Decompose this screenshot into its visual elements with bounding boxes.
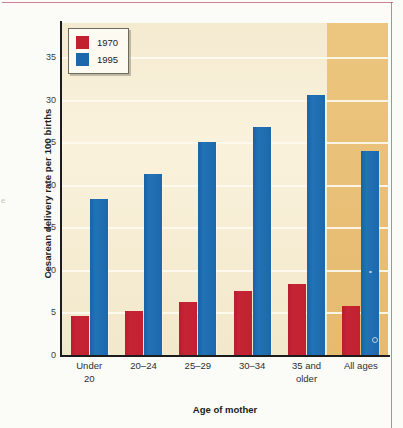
gridline bbox=[62, 312, 388, 314]
y-tick-label: 20 bbox=[34, 180, 56, 190]
bar-1995-all-ages bbox=[361, 151, 379, 355]
legend-label: 1970 bbox=[97, 37, 118, 48]
x-tick-label-line: 20–24 bbox=[114, 360, 174, 373]
chart-legend: 19701995 bbox=[68, 28, 129, 74]
gridline bbox=[62, 142, 388, 144]
bar-chart: Cesarean delivery rate per 100 births 05… bbox=[0, 0, 403, 428]
y-tick-label: 25 bbox=[34, 137, 56, 147]
gridline bbox=[62, 227, 388, 229]
bar-1995-25-29 bbox=[198, 142, 216, 355]
bar-1970-30-34 bbox=[234, 291, 252, 355]
bar-1970-20-24 bbox=[125, 311, 143, 355]
y-tick-label: 30 bbox=[34, 95, 56, 105]
legend-swatch-1970 bbox=[76, 36, 89, 49]
legend-item-1970: 1970 bbox=[76, 34, 118, 51]
y-tick-label: 15 bbox=[34, 222, 56, 232]
x-tick-label: 35 andolder bbox=[277, 360, 337, 385]
x-tick-label-line: 25–29 bbox=[168, 360, 228, 373]
bar-1970-35-and-older bbox=[288, 284, 306, 355]
x-axis-title: Age of mother bbox=[62, 404, 388, 415]
legend-swatch-1995 bbox=[76, 53, 89, 66]
y-axis-line bbox=[60, 21, 62, 357]
x-tick-label-line: All ages bbox=[331, 360, 391, 373]
bar-1970-all-ages bbox=[342, 306, 360, 355]
x-tick-label: All ages bbox=[331, 360, 391, 373]
x-tick-label: 25–29 bbox=[168, 360, 228, 373]
y-tick-label: 5 bbox=[34, 307, 56, 317]
y-tick-label: 35 bbox=[34, 52, 56, 62]
x-axis-tick-labels: Under2020–2425–2930–3435 andolderAll age… bbox=[62, 360, 388, 400]
bar-1995-30-34 bbox=[253, 127, 271, 355]
y-tick-label: 10 bbox=[34, 265, 56, 275]
x-tick-label-line: 35 and bbox=[277, 360, 337, 373]
bar-1970-25-29 bbox=[179, 302, 197, 355]
gridline bbox=[62, 185, 388, 187]
legend-item-1995: 1995 bbox=[76, 51, 118, 68]
x-tick-label-line: Under bbox=[59, 360, 119, 373]
bar-1970-under-20 bbox=[71, 316, 89, 355]
x-tick-label: Under20 bbox=[59, 360, 119, 385]
gridline bbox=[62, 100, 388, 102]
legend-label: 1995 bbox=[97, 54, 118, 65]
y-axis-tick-labels: 05101520253035 bbox=[32, 0, 56, 428]
scan-speckle bbox=[369, 271, 372, 274]
bar-1995-35-and-older bbox=[307, 95, 325, 355]
bar-1995-20-24 bbox=[144, 174, 162, 355]
scan-speckle bbox=[372, 337, 378, 343]
bar-1995-under-20 bbox=[90, 199, 108, 355]
y-tick-label: 0 bbox=[34, 350, 56, 360]
x-tick-label-line: 20 bbox=[59, 373, 119, 386]
x-tick-label-line: 30–34 bbox=[222, 360, 282, 373]
x-tick-label-line: older bbox=[277, 373, 337, 386]
x-axis-line bbox=[60, 355, 390, 357]
x-tick-label: 20–24 bbox=[114, 360, 174, 373]
gridline bbox=[62, 270, 388, 272]
x-tick-label: 30–34 bbox=[222, 360, 282, 373]
